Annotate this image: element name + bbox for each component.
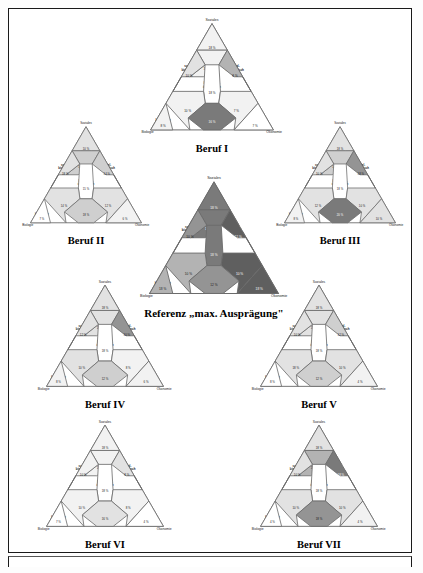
- cell-center: [332, 164, 347, 199]
- cell-value: 18 %: [210, 253, 217, 257]
- axis-label-left: Biologie: [252, 527, 264, 531]
- cell-value: 10 %: [78, 366, 85, 370]
- cell-value: 10 %: [186, 235, 193, 239]
- cell-value: 16 %: [209, 120, 216, 124]
- cell-value: 14 %: [104, 172, 111, 176]
- cell-center: [311, 324, 327, 361]
- cell-value: 6 %: [123, 217, 128, 221]
- cell-right_upper: [346, 151, 375, 188]
- cell-value: 7 %: [56, 520, 61, 524]
- cell-value: 18 %: [338, 473, 345, 477]
- cell-value: 18 %: [209, 91, 216, 95]
- cell-shape: [346, 151, 375, 188]
- figure-frame: stark sozial18 %vorwiegendsozial10 %sozi…: [8, 8, 412, 553]
- ternary-triangle: stark sozial18 %vorwiegendsozial12 %sozi…: [243, 277, 395, 395]
- cell-value: 10 %: [294, 333, 301, 337]
- cell-value: 10 %: [186, 74, 193, 78]
- cell-center: [97, 324, 113, 361]
- axis-label-top: Soziales: [80, 121, 92, 125]
- cell-value: 18 %: [62, 172, 69, 176]
- cell-value: 12 %: [316, 377, 323, 381]
- cell-value: 18 %: [210, 206, 217, 210]
- axis-label-top: Soziales: [313, 280, 326, 284]
- cell-value: 18 %: [316, 489, 323, 493]
- triangle-chart-beruf-vii: stark sozial18 %vorwiegendsozial18 %sozi…: [243, 417, 395, 561]
- cell-value: 18 %: [316, 306, 323, 310]
- cell-value: 15 %: [83, 187, 90, 191]
- triangle-caption-beruf-iv: Beruf IV: [29, 399, 181, 410]
- cell-value: 8 %: [270, 380, 275, 384]
- cell-value: 18 %: [337, 147, 344, 151]
- cell-right_upper: [326, 450, 357, 489]
- cell-value: 20 %: [337, 213, 344, 217]
- cell-value: 12 %: [234, 235, 241, 239]
- axis-label-right: Ökonomie: [371, 527, 386, 531]
- cell-shape: [326, 310, 357, 349]
- cell-value: 10 %: [359, 204, 366, 208]
- axis-label-top: Soziales: [99, 420, 112, 424]
- triangle-chart-beruf-v: stark sozial18 %vorwiegendsozial12 %sozi…: [243, 277, 395, 421]
- axis-label-right: Ökonomie: [157, 387, 172, 391]
- cell-value: 10 %: [83, 147, 90, 151]
- cell-value: 4 %: [358, 520, 363, 524]
- cell-value: 8 %: [160, 124, 166, 128]
- cell-value: 14 %: [61, 204, 68, 208]
- cell-shape: [78, 164, 93, 199]
- cell-shape: [219, 50, 251, 91]
- cell-right_upper: [112, 450, 143, 489]
- cell-value: 7 %: [39, 217, 44, 221]
- axis-label-top: Soziales: [313, 420, 326, 424]
- cell-value: 18 %: [102, 349, 109, 353]
- cell-value: 12 %: [210, 283, 217, 287]
- triangle-chart-beruf-vi: stark sozial18 %vorwiegendsozial10 %sozi…: [29, 417, 181, 561]
- cell-shape: [97, 464, 113, 501]
- axis-label-top: Soziales: [207, 176, 221, 180]
- cell-right_upper: [219, 50, 251, 91]
- cell-value: 4 %: [270, 520, 275, 524]
- cell-value: 10 %: [339, 506, 346, 510]
- cell-value: 18 %: [102, 489, 109, 493]
- cell-value: 7 %: [253, 124, 259, 128]
- cell-value: 18 %: [316, 517, 323, 521]
- cell-value: 4 %: [358, 380, 363, 384]
- cell-value: 8 %: [232, 74, 238, 78]
- cell-shape: [204, 65, 221, 104]
- cell-value: 18 %: [358, 172, 365, 176]
- cell-value: 18 %: [102, 446, 109, 450]
- cell-shape: [311, 324, 327, 361]
- axis-label-top: Soziales: [206, 18, 219, 22]
- cell-value: 7 %: [234, 109, 240, 113]
- cell-value: 10 %: [236, 272, 243, 276]
- cell-value: 10 %: [294, 473, 301, 477]
- figure-page: stark sozial18 %vorwiegendsozial10 %sozi…: [0, 0, 423, 573]
- axis-label-top: Soziales: [99, 280, 112, 284]
- ternary-triangle: stark sozial18 %vorwiegendsozial18 %sozi…: [29, 277, 181, 395]
- cell-shape: [97, 324, 113, 361]
- cell-shape: [92, 151, 121, 188]
- axis-label-right: Ökonomie: [157, 527, 172, 531]
- cell-value: 12 %: [80, 333, 87, 337]
- cell-value: 18 %: [316, 446, 323, 450]
- cell-value: 18 %: [83, 213, 90, 217]
- cell-shape: [205, 225, 223, 265]
- page-bottom-strip: [8, 556, 412, 567]
- cell-value: 10 %: [184, 109, 191, 113]
- cell-value: 4 %: [144, 520, 149, 524]
- cell-shape: [326, 450, 357, 489]
- cell-shape: [332, 164, 347, 199]
- cell-center: [311, 464, 327, 501]
- cell-value: 10 %: [124, 333, 131, 337]
- cell-right_upper: [112, 310, 143, 349]
- triangle-chart-beruf-iv: stark sozial18 %vorwiegendsozial18 %sozi…: [29, 277, 181, 421]
- cell-value: 18 %: [209, 46, 216, 50]
- cell-right_upper: [92, 151, 121, 188]
- cell-value: 10 %: [376, 217, 383, 221]
- ternary-triangle: stark sozial18 %vorwiegendsozial18 %sozi…: [243, 417, 395, 535]
- cell-value: 10 %: [292, 506, 299, 510]
- cell-shape: [112, 310, 143, 349]
- cell-value: 10 %: [78, 506, 85, 510]
- cell-shape: [311, 464, 327, 501]
- cell-center: [78, 164, 93, 199]
- cell-value: 12 %: [315, 204, 322, 208]
- cell-shape: [221, 210, 255, 253]
